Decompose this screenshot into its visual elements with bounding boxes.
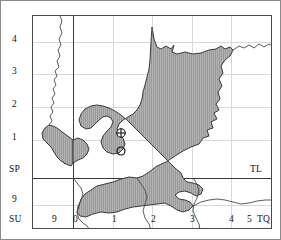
map-frame — [32, 15, 272, 229]
axis-label-x: 0 — [73, 215, 78, 225]
axis-label-y: 3 — [12, 67, 17, 77]
shaded-inlet — [73, 138, 89, 163]
square-label-tl: TL — [250, 165, 262, 175]
open-circle-marker — [115, 145, 127, 157]
axis-label-x: 4 — [229, 215, 234, 225]
axis-label-x: 1 — [112, 215, 117, 225]
square-label-tq: TQ — [257, 215, 270, 225]
shaded-peninsula-west — [42, 125, 73, 166]
axis-label-x: 5 — [247, 215, 252, 225]
shaded-study-area — [77, 27, 233, 217]
axis-label-x: 3 — [190, 215, 195, 225]
axis-label-y: 4 — [12, 35, 17, 45]
map-graphic — [33, 16, 272, 229]
map-figure: 4 3 2 1 SP 9 SU 9 0 1 2 3 4 5 TQ TL — [0, 0, 281, 240]
square-label-su: SU — [9, 215, 22, 225]
crossed-circle-marker — [115, 127, 127, 139]
axis-label-x: 9 — [52, 215, 57, 225]
axis-label-y: 1 — [12, 133, 17, 143]
coastline-northeast — [233, 44, 272, 50]
square-label-sp: SP — [9, 165, 20, 175]
axis-label-y: 9 — [12, 195, 17, 205]
axis-label-x: 2 — [151, 215, 156, 225]
axis-label-y: 2 — [12, 100, 17, 110]
